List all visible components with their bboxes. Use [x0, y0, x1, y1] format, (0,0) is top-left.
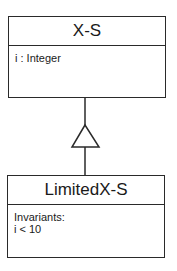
class-x-s: X-S i : Integer — [8, 16, 166, 98]
class-invariants: Invariants: i < 10 — [8, 205, 164, 235]
inheritance-arrow-icon — [72, 125, 99, 147]
class-attributes: i : Integer — [9, 46, 165, 64]
class-name: LimitedX-S — [8, 176, 164, 205]
attribute-i: i : Integer — [15, 52, 165, 64]
invariant-i: i < 10 — [14, 223, 164, 235]
class-name: X-S — [9, 17, 165, 46]
invariants-label: Invariants: — [14, 211, 164, 223]
class-limitedx-s: LimitedX-S Invariants: i < 10 — [7, 175, 165, 258]
